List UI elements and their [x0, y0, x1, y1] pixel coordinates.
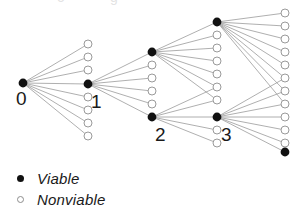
- tree-node-nonviable: [84, 66, 92, 74]
- legend: Viable Nonviable: [12, 168, 212, 210]
- tree-node-nonviable: [148, 61, 156, 69]
- tree-node-nonviable: [281, 35, 289, 43]
- tree-node-nonviable: [281, 113, 289, 121]
- tree-node-labels: 0123: [16, 88, 232, 145]
- tree-node-viable: [148, 113, 157, 122]
- tree-node-nonviable: [84, 119, 92, 127]
- tree-nodes: [19, 9, 290, 156]
- tree-node-label: 1: [91, 91, 102, 112]
- tree-node-viable: [213, 113, 222, 122]
- legend-item-viable: Viable: [12, 168, 212, 189]
- tree-node-viable: [148, 48, 157, 57]
- tree-edge: [152, 48, 217, 52]
- tree-edges: [23, 13, 285, 152]
- tree-edge: [23, 83, 88, 84]
- tree-edge: [217, 22, 285, 52]
- tree-node-nonviable: [281, 139, 289, 147]
- tree-edge: [152, 35, 217, 52]
- tree-node-nonviable: [84, 40, 92, 48]
- tree-edge: [217, 22, 285, 91]
- tree-node-nonviable: [281, 22, 289, 30]
- tree-edge: [217, 104, 285, 117]
- tree-node-nonviable: [281, 126, 289, 134]
- tree-edge: [152, 87, 217, 117]
- tree-edge: [152, 52, 217, 87]
- tree-edge: [23, 57, 88, 83]
- tree-edge: [88, 84, 152, 91]
- tree-node-nonviable: [281, 87, 289, 95]
- tree-edge: [23, 83, 88, 123]
- tree-node-nonviable: [148, 100, 156, 108]
- tree-node-nonviable: [148, 87, 156, 95]
- tree-node-nonviable: [213, 44, 221, 52]
- tree-node-nonviable: [84, 132, 92, 140]
- tree-node-nonviable: [213, 31, 221, 39]
- tree-node-nonviable: [213, 96, 221, 104]
- tree-edge: [217, 78, 285, 117]
- tree-node-nonviable: [213, 70, 221, 78]
- tree-edge: [23, 83, 88, 136]
- tree-node-nonviable: [213, 57, 221, 65]
- tree-edge: [152, 52, 217, 74]
- tree-node-label: 3: [221, 124, 232, 145]
- tree-node-nonviable: [213, 139, 221, 147]
- tree-node-nonviable: [281, 61, 289, 69]
- tree-node-nonviable: [281, 74, 289, 82]
- tree-node-nonviable: [148, 74, 156, 82]
- legend-label-viable: Viable: [37, 170, 80, 187]
- tree-edge: [23, 83, 88, 97]
- filled-dot-icon: [12, 175, 28, 182]
- tree-node-viable: [19, 79, 28, 88]
- tree-edge: [23, 44, 88, 83]
- tree-edge: [23, 70, 88, 83]
- tree-edge: [217, 22, 285, 65]
- tree-node-label: 2: [155, 124, 166, 145]
- tree-edge: [217, 13, 285, 22]
- tree-node-nonviable: [213, 126, 221, 134]
- tree-node-nonviable: [281, 100, 289, 108]
- tree-edge: [23, 83, 88, 110]
- tree-edge: [152, 52, 217, 100]
- legend-label-nonviable: Nonviable: [37, 191, 106, 208]
- tree-edge: [217, 91, 285, 117]
- figure-canvas: o g 0123 Viable Nonviable: [0, 0, 293, 217]
- tree-node-label: 0: [16, 88, 27, 109]
- tree-node-nonviable: [213, 83, 221, 91]
- open-dot-icon: [12, 196, 28, 203]
- tree-edge: [217, 22, 285, 104]
- tree-node-nonviable: [84, 53, 92, 61]
- tree-node-viable: [213, 18, 222, 27]
- tree-edge: [152, 22, 217, 52]
- tree-edge: [217, 22, 285, 26]
- tree-node-viable: [281, 148, 290, 157]
- tree-node-nonviable: [281, 9, 289, 17]
- legend-item-nonviable: Nonviable: [12, 189, 212, 210]
- tree-node-nonviable: [281, 48, 289, 56]
- tree-edge: [152, 100, 217, 117]
- tree-node-viable: [84, 80, 93, 89]
